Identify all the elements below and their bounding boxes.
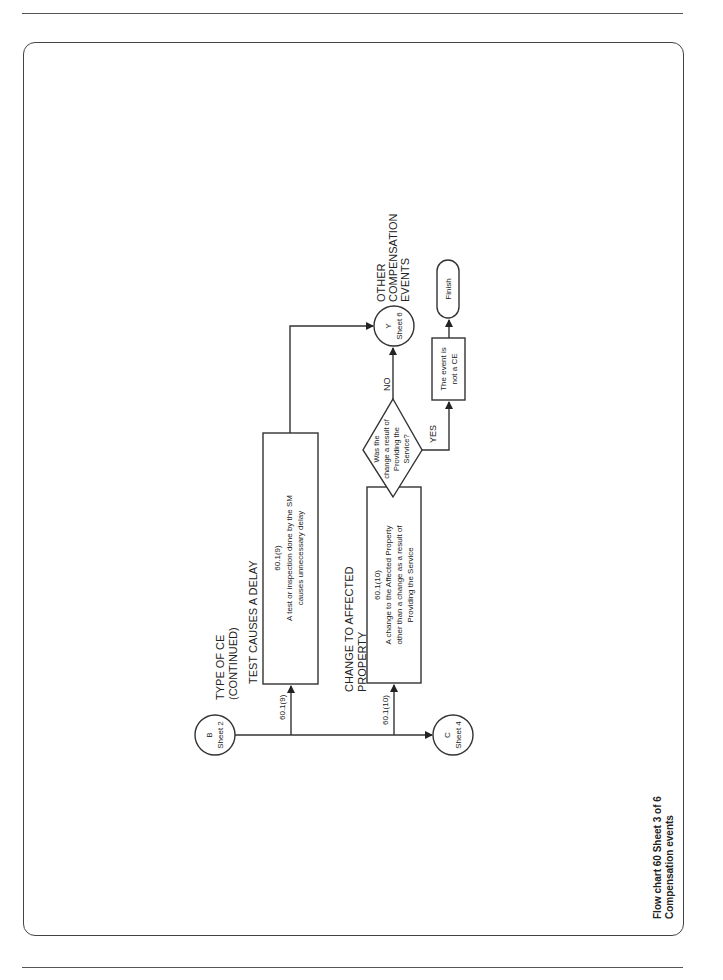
svg-text:C: C [443,732,452,738]
no-label: NO [382,378,392,392]
svg-text:EVENTS: EVENTS [399,258,411,302]
svg-text:Providing the: Providing the [392,427,401,471]
svg-text:YES: YES [428,425,438,443]
other-compensation-events-label: OTHER COMPENSATION EVENTS [375,214,411,302]
svg-text:TYPE OF CE: TYPE OF CE [214,635,226,700]
flowchart-diagram: B Sheet 2 TYPE OF CE (CONTINUED) 60.1(9)… [0,0,723,980]
svg-text:Was the: Was the [372,435,381,462]
svg-text:Providing the Service: Providing the Service [406,547,415,623]
svg-text:60.1(9): 60.1(9) [278,694,287,720]
svg-text:A test or inspection done by t: A test or inspection done by the SM [285,495,294,621]
svg-text:Flow chart 60 Sheet 3 of 6: Flow chart 60 Sheet 3 of 6 [652,796,663,919]
svg-text:Finish: Finish [444,278,453,299]
branch-title-change-to-affected-property: CHANGE TO AFFECTED PROPERTY [343,566,368,692]
svg-text:other than a change as a resul: other than a change as a result of [395,525,404,645]
svg-text:60.1(10): 60.1(10) [381,695,390,725]
svg-text:PROPERTY: PROPERTY [356,631,368,692]
svg-text:COMPENSATION: COMPENSATION [387,214,399,302]
connector-c-sheet-4: C Sheet 4 [433,715,473,755]
svg-text:change a result of: change a result of [382,418,391,479]
yes-label: YES [428,425,438,443]
svg-text:Sheet 2: Sheet 2 [216,721,225,749]
svg-text:Compensation events: Compensation events [664,815,675,919]
clause-label-60-1-9: 60.1(9) [278,694,287,720]
flowchart-heading: TYPE OF CE (CONTINUED) [214,627,239,700]
svg-text:Y: Y [384,323,393,329]
svg-text:60.1(10): 60.1(10) [373,570,382,600]
svg-text:NO: NO [382,378,392,392]
svg-text:OTHER: OTHER [375,263,387,302]
svg-text:causes unnecessary delay: causes unnecessary delay [296,511,305,605]
svg-text:Sheet 6: Sheet 6 [395,312,404,340]
svg-text:A change to the Affected Prope: A change to the Affected Property [384,525,393,644]
process-box-60-1-10: 60.1(10) A change to the Affected Proper… [367,487,421,683]
svg-text:B: B [205,732,214,737]
process-box-60-1-9: 60.1(9) A test or inspection done by the… [263,433,318,684]
svg-text:The event is: The event is [439,347,448,391]
outcome-box-not-a-ce: The event is not a CE [432,338,465,400]
clause-label-60-1-10: 60.1(10) [381,695,390,725]
connector-y-sheet-6: Y Sheet 6 [374,306,414,346]
svg-text:CHANGE TO AFFECTED: CHANGE TO AFFECTED [343,566,355,692]
terminal-finish: Finish [437,260,459,318]
connector-b-sheet-2: B Sheet 2 [195,715,235,755]
connector-line-to-y [290,326,373,433]
svg-text:TEST CAUSES A DELAY: TEST CAUSES A DELAY [247,560,259,684]
svg-text:Sheet 4: Sheet 4 [454,721,463,749]
svg-text:not a CE: not a CE [450,353,459,384]
figure-caption: Flow chart 60 Sheet 3 of 6 Compensation … [652,796,675,919]
svg-text:(CONTINUED): (CONTINUED) [227,627,239,700]
svg-text:60.1(9): 60.1(9) [273,545,282,571]
svg-text:Service?: Service? [402,434,411,463]
branch-title-test-causes-delay: TEST CAUSES A DELAY [247,560,259,684]
decision-diamond: Was the change a result of Providing the… [363,399,422,497]
